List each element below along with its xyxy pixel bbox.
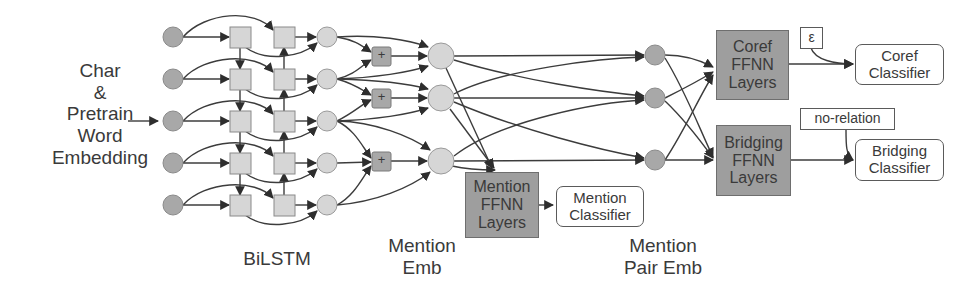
plus-symbol: + [372,48,391,63]
mention-classifier: Mention Classifier [556,186,644,227]
input-embedding-label: Char & Pretrain Word Embedding [50,60,150,168]
coref-ffnn-layers: Coref FFNN Layers [716,30,789,100]
plus-symbol: + [372,90,391,105]
model-architecture-diagram: + + + Char & Pretrain Word Embedding BiL… [0,0,980,297]
coref-classifier: Coref Classifier [855,44,944,85]
mention-emb-label: Mention Emb [372,235,472,279]
epsilon-tag: ε [800,27,823,49]
mention-ffnn-layers: Mention FFNN Layers [465,172,539,238]
plus-symbol: + [372,153,391,168]
bilstm-label: BiLSTM [242,248,312,270]
bridging-classifier: Bridging Classifier [855,139,944,181]
mention-pair-emb-label: Mention Pair Emb [608,235,718,279]
bridging-ffnn-layers: Bridging FFNN Layers [716,125,791,196]
no-relation-tag: no-relation [800,108,895,130]
